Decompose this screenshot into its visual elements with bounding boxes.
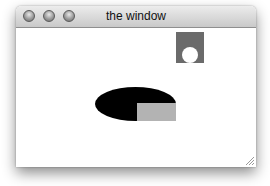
window-title: the window [16, 9, 256, 23]
white-circle [182, 47, 198, 63]
app-window: the window [16, 6, 256, 167]
title-bar[interactable]: the window [16, 6, 256, 28]
canvas [16, 28, 256, 167]
resize-grip-icon[interactable] [244, 155, 255, 166]
gray-rectangle [137, 103, 176, 121]
